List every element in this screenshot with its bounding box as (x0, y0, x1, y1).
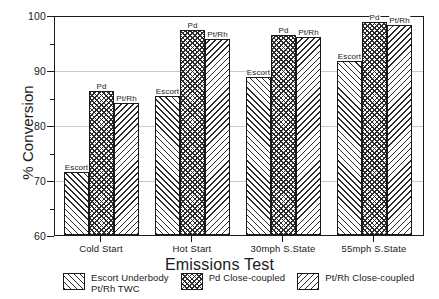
legend-swatch-crosshatch-icon (181, 273, 203, 290)
bar-cold-start-escort: Escort (64, 172, 89, 235)
bar-hot-start-ptrh: Pt/Rh (205, 39, 230, 235)
bar-label-55mph-sstate-pd: Pd (369, 13, 380, 22)
bar-label-cold-start-ptrh: Pt/Rh (116, 94, 138, 103)
bar-label-30mph-sstate-escort: Escort (246, 68, 270, 77)
y-tick-major-100 (47, 16, 54, 17)
bar-hot-start-escort: Escort (155, 96, 180, 235)
x-category-label-cold-start: Cold Start (79, 243, 123, 254)
legend-swatch-forward-diagonal-hatch-icon (63, 273, 85, 290)
y-tick-label-100: 100 (28, 10, 46, 22)
plot-area: Escort Pd Pt/Rh Escort Pd Pt/Rh Esco (54, 16, 424, 236)
bar-label-hot-start-pd: Pd (187, 21, 198, 30)
x-tick-2 (191, 236, 192, 242)
y-tick-label-70: 70 (34, 175, 46, 187)
bar-55mph-sstate-escort: Escort (337, 61, 362, 235)
x-tick-3 (282, 236, 283, 242)
y-tick-label-90: 90 (34, 65, 46, 77)
x-category-label-30mph-sstate: 30mph S.State (251, 243, 316, 254)
y-tick-major-80 (47, 126, 54, 127)
y-tick-label-60: 60 (34, 230, 46, 242)
bar-hot-start-pd: Pd (180, 30, 205, 235)
legend-label-escort-underbody: Escort Underbody Pt/Rh TWC (91, 272, 169, 294)
chart-figure: 100 90 80 70 60 % Conversion Escort Pd (0, 0, 439, 299)
bar-label-55mph-sstate-ptrh: Pt/Rh (389, 16, 411, 25)
legend-item-escort-underbody: Escort Underbody Pt/Rh TWC (63, 272, 169, 294)
y-tick-label-80: 80 (34, 120, 46, 132)
bar-30mph-sstate-ptrh: Pt/Rh (296, 37, 321, 235)
y-axis-title: % Conversion (19, 43, 36, 223)
bar-cold-start-ptrh: Pt/Rh (114, 103, 139, 235)
x-tick-1 (100, 236, 101, 242)
bar-30mph-sstate-escort: Escort (246, 77, 271, 235)
legend-label-pd-close-coupled: Pd Close-coupled (209, 272, 286, 283)
y-tick-major-70 (47, 181, 54, 182)
bar-label-hot-start-ptrh: Pt/Rh (207, 30, 229, 39)
y-tick-major-60 (47, 236, 54, 237)
bar-label-55mph-sstate-escort: Escort (337, 52, 361, 61)
legend-label-ptrh-close-coupled: Pt/Rh Close-coupled (325, 272, 414, 283)
legend-item-pd-close-coupled: Pd Close-coupled (181, 272, 286, 290)
bar-label-30mph-sstate-ptrh: Pt/Rh (298, 28, 320, 37)
x-category-label-55mph-sstate: 55mph S.State (342, 243, 407, 254)
bar-label-cold-start-pd: Pd (96, 82, 107, 91)
x-category-label-hot-start: Hot Start (173, 243, 212, 254)
bar-30mph-sstate-pd: Pd (271, 35, 296, 235)
legend-item-ptrh-close-coupled: Pt/Rh Close-coupled (297, 272, 414, 290)
legend-swatch-backward-diagonal-hatch-icon (297, 273, 319, 290)
bar-label-cold-start-escort: Escort (64, 163, 88, 172)
bar-55mph-sstate-ptrh: Pt/Rh (387, 25, 412, 235)
bar-label-hot-start-escort: Escort (155, 87, 179, 96)
x-tick-4 (373, 236, 374, 242)
legend: Escort Underbody Pt/Rh TWC Pd Close-coup… (63, 272, 414, 294)
bar-label-30mph-sstate-pd: Pd (278, 26, 289, 35)
bar-55mph-sstate-pd: Pd (362, 22, 387, 235)
bar-cold-start-pd: Pd (89, 91, 114, 235)
y-tick-major-90 (47, 71, 54, 72)
